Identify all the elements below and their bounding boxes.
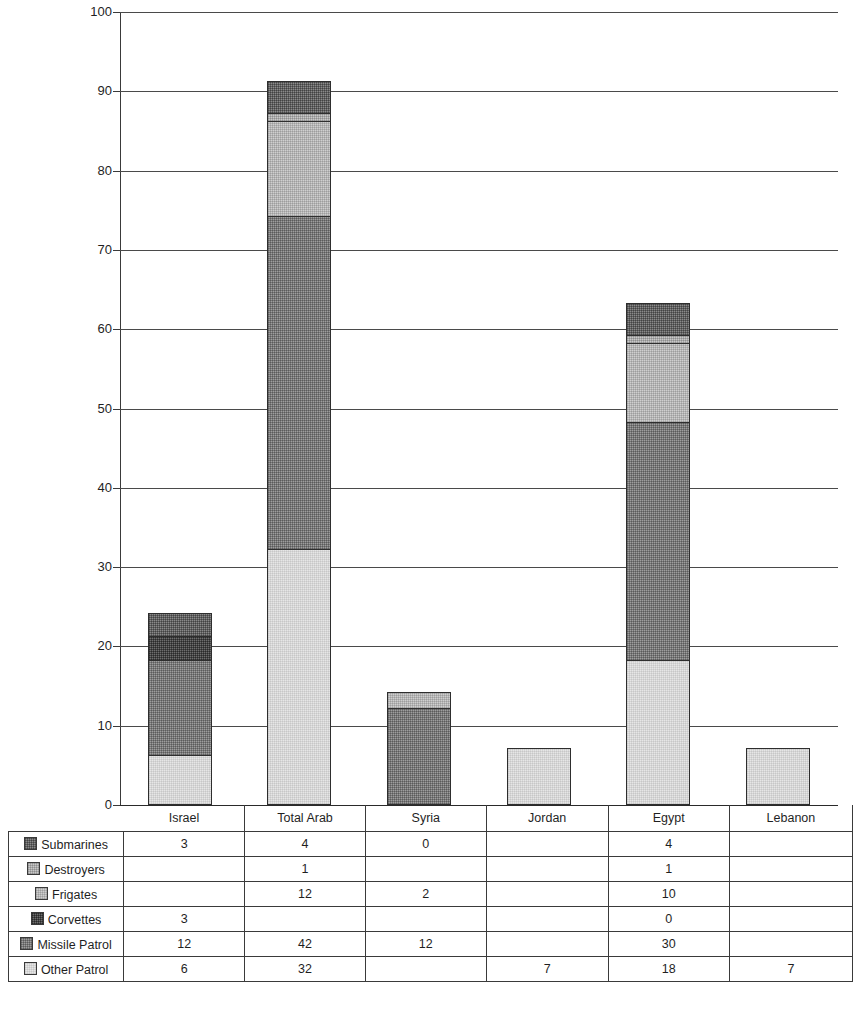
table-corner-cell xyxy=(9,805,124,832)
bar-segment-mis xyxy=(627,423,689,661)
bar-stack xyxy=(387,692,451,805)
legend-swatch-icon xyxy=(31,912,44,925)
bar-segment-mis xyxy=(268,217,330,550)
table-cell: 4 xyxy=(608,832,729,857)
table-cell: 3 xyxy=(124,907,245,932)
table-cell: 42 xyxy=(245,932,366,957)
table-row: Submarines3404 xyxy=(9,832,853,857)
table-cell xyxy=(365,907,486,932)
legend-swatch-icon xyxy=(24,837,37,850)
table-cell: 0 xyxy=(365,832,486,857)
table-cell xyxy=(729,932,852,957)
table-cell xyxy=(486,857,608,882)
table-column-header-egypt: Egypt xyxy=(608,805,729,832)
table-column-header-syria: Syria xyxy=(365,805,486,832)
legend-label: Submarines xyxy=(41,838,108,852)
table-cell: 32 xyxy=(245,957,366,982)
table-row: Missile Patrol12421230 xyxy=(9,932,853,957)
table-cell: 10 xyxy=(608,882,729,907)
data-table: IsraelTotal ArabSyriaJordanEgyptLebanonS… xyxy=(8,805,853,982)
table-cell xyxy=(486,832,608,857)
bar-segment-sub xyxy=(268,82,330,114)
bar-segment-cor xyxy=(149,637,211,661)
legend-row-submarines: Submarines xyxy=(9,832,124,857)
table-cell: 30 xyxy=(608,932,729,957)
bar-column-israel[interactable] xyxy=(120,12,240,805)
table-cell: 7 xyxy=(486,957,608,982)
bar-segment-oth xyxy=(268,550,330,804)
legend-label: Destroyers xyxy=(44,863,104,877)
table-cell xyxy=(365,857,486,882)
legend-row-corvettes: Corvettes xyxy=(9,907,124,932)
bars-layer xyxy=(120,12,838,805)
table-cell: 12 xyxy=(365,932,486,957)
bar-segment-oth xyxy=(149,756,211,804)
table-cell: 2 xyxy=(365,882,486,907)
table-cell: 1 xyxy=(245,857,366,882)
table-row: Other Patrol6327187 xyxy=(9,957,853,982)
bar-stack xyxy=(626,303,690,805)
legend-label: Frigates xyxy=(52,888,97,902)
table-column-header-israel: Israel xyxy=(124,805,245,832)
bar-stack xyxy=(746,748,810,806)
bar-segment-oth xyxy=(627,661,689,804)
table-cell xyxy=(486,907,608,932)
table-row: Destroyers11 xyxy=(9,857,853,882)
footnote-text xyxy=(8,1001,708,1015)
table-cell xyxy=(729,882,852,907)
bar-segment-mis xyxy=(388,709,450,804)
legend-row-missile-patrol: Missile Patrol xyxy=(9,932,124,957)
table-cell: 1 xyxy=(608,857,729,882)
table-cell xyxy=(486,932,608,957)
bar-column-egypt[interactable] xyxy=(599,12,719,805)
table-cell xyxy=(729,857,852,882)
table-cell: 0 xyxy=(608,907,729,932)
table-row: Frigates12210 xyxy=(9,882,853,907)
legend-row-frigates: Frigates xyxy=(9,882,124,907)
table-cell: 18 xyxy=(608,957,729,982)
table-cell: 12 xyxy=(245,882,366,907)
legend-label: Corvettes xyxy=(48,913,102,927)
bar-stack xyxy=(267,81,331,805)
table-cell: 4 xyxy=(245,832,366,857)
bar-segment-sub xyxy=(627,304,689,336)
bar-segment-oth xyxy=(508,749,570,805)
table-cell: 7 xyxy=(729,957,852,982)
table-cell: 3 xyxy=(124,832,245,857)
bar-column-jordan[interactable] xyxy=(479,12,599,805)
table-column-header-total-arab: Total Arab xyxy=(245,805,366,832)
table-cell xyxy=(124,857,245,882)
legend-label: Missile Patrol xyxy=(37,938,111,952)
bar-segment-des xyxy=(268,114,330,122)
bar-segment-fri xyxy=(388,693,450,709)
legend-swatch-icon xyxy=(27,862,40,875)
bar-column-syria[interactable] xyxy=(359,12,479,805)
bar-segment-oth xyxy=(747,749,809,805)
legend-label: Other Patrol xyxy=(41,963,108,977)
table-header-row: IsraelTotal ArabSyriaJordanEgyptLebanon xyxy=(9,805,853,832)
legend-swatch-icon xyxy=(24,962,37,975)
legend-row-destroyers: Destroyers xyxy=(9,857,124,882)
bar-column-lebanon[interactable] xyxy=(718,12,838,805)
table-cell xyxy=(124,882,245,907)
table-cell: 12 xyxy=(124,932,245,957)
table-cell xyxy=(729,832,852,857)
bar-segment-mis xyxy=(149,661,211,756)
legend-row-other-patrol: Other Patrol xyxy=(9,957,124,982)
table-row: Corvettes30 xyxy=(9,907,853,932)
bar-column-total-arab[interactable] xyxy=(240,12,360,805)
table-cell xyxy=(245,907,366,932)
y-axis-tick-marks xyxy=(0,12,130,805)
legend-swatch-icon xyxy=(35,887,48,900)
bar-stack xyxy=(507,748,571,806)
bar-segment-sub xyxy=(149,614,211,638)
table-column-header-lebanon: Lebanon xyxy=(729,805,852,832)
bar-segment-fri xyxy=(268,122,330,217)
table-cell: 6 xyxy=(124,957,245,982)
table-cell xyxy=(486,882,608,907)
table-column-header-jordan: Jordan xyxy=(486,805,608,832)
bar-stack xyxy=(148,613,212,805)
table-cell xyxy=(365,957,486,982)
bar-segment-des xyxy=(627,336,689,344)
legend-swatch-icon xyxy=(20,937,33,950)
